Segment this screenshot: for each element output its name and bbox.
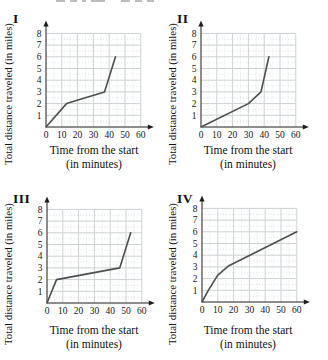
x-tick-label: 20 (74, 306, 84, 316)
x-tick-label: 0 (199, 130, 204, 140)
y-tick-label: 6 (38, 228, 43, 238)
x-tick-label: 50 (120, 130, 130, 140)
y-axis-arrow-icon (199, 195, 204, 201)
x-tick-label: 50 (121, 306, 131, 316)
x-axis-title: Time from the start (in minutes) (176, 323, 320, 351)
y-tick-label: 2 (37, 99, 42, 109)
x-axis-arrow-icon (149, 300, 155, 305)
x-tick-label: 30 (244, 130, 254, 140)
y-tick-label: 2 (192, 99, 197, 109)
x-tick-label: 20 (73, 130, 83, 140)
figure-page: 010203040506012345678 I Total distance t… (0, 0, 328, 360)
x-tick-label: 30 (89, 130, 99, 140)
y-tick-label: 7 (38, 216, 43, 226)
y-tick-label: 1 (193, 286, 198, 296)
x-axis-title-line1: Time from the start (176, 323, 320, 337)
x-tick-label: 0 (200, 305, 205, 315)
y-tick-label: 5 (193, 239, 198, 249)
y-tick-label: 4 (37, 75, 42, 85)
x-axis-arrow-icon (148, 124, 154, 129)
y-axis-arrow-icon (44, 196, 49, 202)
x-axis-title-line1: Time from the start (28, 143, 160, 157)
x-axis-title-line1: Time from the start (176, 143, 320, 157)
x-tick-label: 30 (245, 305, 255, 315)
y-tick-label: 5 (38, 240, 43, 250)
x-tick-label: 60 (136, 130, 146, 140)
x-tick-label: 60 (137, 306, 147, 316)
y-tick-label: 4 (193, 250, 198, 260)
x-tick-label: 50 (275, 130, 285, 140)
y-axis-arrow-icon (43, 20, 48, 26)
y-tick-label: 7 (193, 215, 198, 225)
y-tick-label: 5 (37, 64, 42, 74)
chart-panel-4: 010203040506012345678 IV Total distance … (164, 180, 328, 360)
x-axis-title: Time from the start (in minutes) (28, 143, 160, 171)
chart-panel-2: 010203040506012345678 II Total distance … (164, 0, 328, 180)
x-axis-title-line2: (in minutes) (28, 157, 160, 171)
x-axis-title-line2: (in minutes) (176, 157, 320, 171)
y-tick-label: 8 (38, 205, 43, 215)
y-tick-label: 1 (37, 111, 42, 121)
y-tick-label: 6 (192, 52, 197, 62)
x-tick-label: 20 (228, 130, 238, 140)
x-tick-label: 0 (44, 130, 49, 140)
x-tick-label: 50 (276, 305, 286, 315)
chart-panel-1: 010203040506012345678 I Total distance t… (0, 0, 164, 180)
x-axis-title: Time from the start (in minutes) (176, 143, 320, 171)
x-tick-label: 40 (259, 130, 269, 140)
y-tick-label: 6 (37, 52, 42, 62)
y-tick-label: 4 (38, 251, 43, 261)
y-tick-label: 3 (38, 263, 43, 273)
x-tick-label: 60 (292, 305, 302, 315)
y-tick-label: 8 (192, 29, 197, 39)
y-tick-label: 3 (193, 262, 198, 272)
y-tick-label: 3 (192, 87, 197, 97)
x-tick-label: 10 (213, 305, 223, 315)
x-axis-arrow-icon (303, 124, 309, 129)
y-tick-label: 7 (192, 40, 197, 50)
y-tick-label: 2 (193, 274, 198, 284)
y-tick-label: 4 (192, 75, 197, 85)
x-tick-label: 40 (104, 130, 114, 140)
y-tick-label: 5 (192, 64, 197, 74)
x-axis-title-line1: Time from the start (28, 323, 160, 337)
y-tick-label: 2 (38, 275, 43, 285)
y-axis-arrow-icon (198, 20, 203, 26)
x-tick-label: 10 (58, 306, 68, 316)
y-tick-label: 1 (38, 287, 43, 297)
y-axis-title: Total distance traveled (in miles) (1, 12, 16, 176)
y-tick-label: 8 (37, 29, 42, 39)
x-tick-label: 40 (105, 306, 115, 316)
x-tick-label: 60 (291, 130, 301, 140)
y-tick-label: 7 (37, 40, 42, 50)
y-tick-label: 6 (193, 227, 198, 237)
x-tick-label: 40 (260, 305, 270, 315)
x-axis-arrow-icon (304, 299, 310, 304)
y-axis-title: Total distance traveled (in miles) (1, 192, 16, 356)
chart-panel-3: 010203040506012345678 III Total distance… (0, 180, 164, 360)
x-axis-title-line2: (in minutes) (28, 337, 160, 351)
x-tick-label: 10 (57, 130, 67, 140)
y-tick-label: 8 (193, 204, 198, 214)
x-tick-label: 20 (229, 305, 239, 315)
x-axis-title: Time from the start (in minutes) (28, 323, 160, 351)
x-tick-label: 30 (90, 306, 100, 316)
x-tick-label: 0 (45, 306, 50, 316)
x-axis-title-line2: (in minutes) (176, 337, 320, 351)
y-tick-label: 3 (37, 87, 42, 97)
x-tick-label: 10 (212, 130, 222, 140)
y-tick-label: 1 (192, 111, 197, 121)
